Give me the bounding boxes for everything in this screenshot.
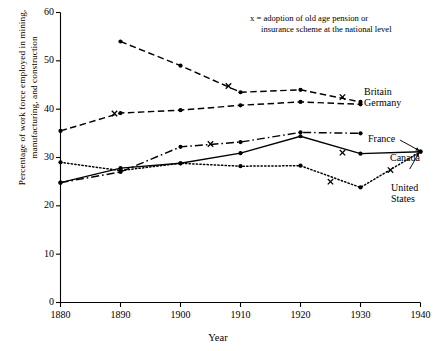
y-tick-label: 30	[28, 151, 54, 162]
data-point	[238, 151, 242, 155]
data-point	[238, 90, 242, 94]
x-tick-label: 1930	[341, 309, 381, 320]
x-axis-label: Year	[0, 332, 436, 343]
series-label-united-states-line1: United	[391, 182, 418, 193]
series-label-united-states: United States	[391, 182, 418, 204]
chart-axes	[56, 13, 421, 308]
data-point	[118, 111, 122, 115]
data-point	[298, 88, 302, 92]
data-point	[298, 164, 302, 168]
x-tick-label: 1920	[281, 309, 321, 320]
data-point	[358, 131, 362, 135]
chart-figure: Percentage of work force employed in min…	[0, 0, 436, 351]
x-tick-label: 1890	[101, 309, 141, 320]
series-label-britain: Britain	[364, 86, 392, 97]
data-point	[298, 100, 302, 104]
data-point	[238, 140, 242, 144]
data-point	[358, 152, 362, 156]
data-point	[58, 181, 62, 185]
note-line-1: x = adoption of old age pension or	[250, 13, 434, 24]
data-point	[238, 164, 242, 168]
data-point	[178, 64, 182, 68]
series-germany	[58, 100, 362, 133]
data-point	[58, 129, 62, 133]
y-tick-label: 0	[28, 296, 54, 307]
data-point	[298, 134, 302, 138]
y-tick-label: 40	[28, 103, 54, 114]
chart-annotation-note: x = adoption of old age pension or insur…	[250, 13, 434, 35]
y-axis-label-line1: Percentage of work force employed in min…	[17, 0, 29, 218]
y-tick-label: 60	[28, 6, 54, 17]
data-point	[118, 168, 122, 172]
series-label-germany: Germany	[364, 97, 401, 108]
pension-adoption-x-marker	[340, 150, 345, 155]
y-tick-label: 20	[28, 199, 54, 210]
pension-adoption-x-marker	[328, 179, 333, 184]
x-tick-label: 1940	[401, 309, 436, 320]
data-point	[178, 145, 182, 149]
data-point	[178, 108, 182, 112]
data-point	[58, 160, 62, 164]
series-label-canada: Canada	[390, 152, 420, 163]
data-point	[118, 39, 122, 43]
data-point	[298, 130, 302, 134]
y-tick-label: 10	[28, 248, 54, 259]
x-tick-label: 1900	[161, 309, 201, 320]
x-tick-label: 1880	[41, 309, 81, 320]
series-label-united-states-line2: States	[391, 193, 418, 204]
series-label-france: France	[368, 133, 395, 144]
series-britain	[118, 39, 362, 104]
data-point	[178, 161, 182, 165]
chart-series-group	[58, 39, 422, 189]
x-tick-label: 1910	[221, 309, 261, 320]
note-line-2: insurance scheme at the national level	[250, 24, 434, 35]
chart-canvas	[0, 0, 436, 351]
data-point	[358, 102, 362, 106]
data-point	[238, 103, 242, 107]
y-tick-label: 50	[28, 54, 54, 65]
data-point	[358, 185, 362, 189]
